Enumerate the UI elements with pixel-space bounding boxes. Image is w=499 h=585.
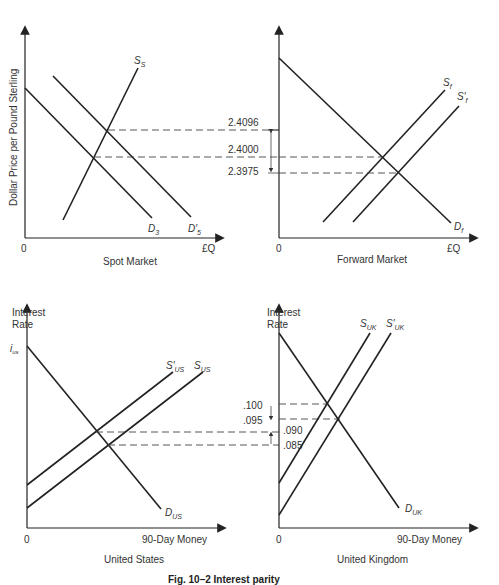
us-supply-sus2-curve <box>27 372 173 485</box>
spot-x-axis-label: £Q <box>202 243 216 254</box>
uk-demand-label: DUK <box>405 503 422 516</box>
rate-label-090: .090 <box>283 425 303 436</box>
spot-market-title: Spot Market <box>103 256 157 267</box>
forward-supply-sf-curve <box>323 90 445 222</box>
forward-supply-sf-label: Sf <box>443 77 453 90</box>
uk-supply-suk2-label: S′UK <box>386 318 405 331</box>
us-y-intercept-label: ius <box>10 343 19 355</box>
forward-x-axis-label: £Q <box>447 243 461 254</box>
uk-y-axis-label-1: Interest <box>267 307 301 318</box>
us-origin-label: 0 <box>24 534 30 545</box>
spot-demand-d5-label: D′5 <box>188 223 201 236</box>
rate-label-095: .095 <box>243 415 263 426</box>
rate-label-100: .100 <box>243 400 263 411</box>
uk-origin-label: 0 <box>276 534 282 545</box>
spot-demand-d5-curve <box>53 76 191 217</box>
us-supply-sus-curve <box>27 372 203 508</box>
us-y-axis-label-1: Interest <box>12 307 46 318</box>
uk-demand-curve <box>279 333 399 508</box>
price-label-24000: 2.4000 <box>228 144 259 155</box>
forward-demand-label: Df <box>454 221 464 234</box>
us-x-axis-label: 90-Day Money <box>142 534 207 545</box>
figure-caption: Fig. 10–2 Interest parity <box>168 574 280 585</box>
spot-origin-label: 0 <box>21 243 27 254</box>
spot-demand-d3-label: D3 <box>148 223 159 236</box>
uk-supply-suk2-curve <box>279 333 391 515</box>
spot-y-axis-label: Dollar Price per Pound Sterling <box>8 69 19 206</box>
us-y-axis-label-2: Rate <box>12 319 34 330</box>
us-demand-label: DUS <box>165 507 182 520</box>
rate-level-labels: .100 .095 .090 .085 <box>243 400 303 451</box>
spot-demand-d3-curve <box>25 88 152 218</box>
uk-panel-title: United Kingdom <box>337 554 408 565</box>
us-panel-title: United States <box>104 554 164 565</box>
forward-market-title: Forward Market <box>337 254 407 265</box>
uk-supply-suk-curve <box>279 333 370 483</box>
us-supply-sus2-label: S′US <box>166 360 185 373</box>
us-demand-curve <box>27 346 161 509</box>
united-kingdom-panel: Interest Rate SUK S′UK DUK 0 90-Day Mone… <box>267 307 474 565</box>
price-level-labels: 2.4096 2.4000 2.3975 <box>228 117 279 177</box>
spot-supply-curve <box>63 68 138 220</box>
forward-origin-label: 0 <box>276 243 282 254</box>
uk-x-axis-label: 90-Day Money <box>397 534 462 545</box>
price-label-24096: 2.4096 <box>228 117 259 128</box>
price-label-23975: 2.3975 <box>228 166 259 177</box>
interest-parity-diagram: SS D3 D′5 0 £Q Spot Market Dollar Price … <box>0 0 499 585</box>
forward-demand-curve <box>279 58 451 223</box>
spot-supply-label: SS <box>134 55 146 68</box>
us-supply-sus-label: SUS <box>194 360 211 373</box>
uk-supply-suk-label: SUK <box>360 318 377 331</box>
uk-y-axis-label-2: Rate <box>267 319 289 330</box>
united-states-panel: Interest Rate ius S′US SUS DUS 0 90-Day … <box>10 307 279 565</box>
forward-market-panel: Sf S′f Df 0 £Q Forward Market <box>276 30 474 265</box>
forward-supply-sf2-label: S′f <box>457 91 469 104</box>
forward-supply-sf2-curve <box>353 106 459 222</box>
